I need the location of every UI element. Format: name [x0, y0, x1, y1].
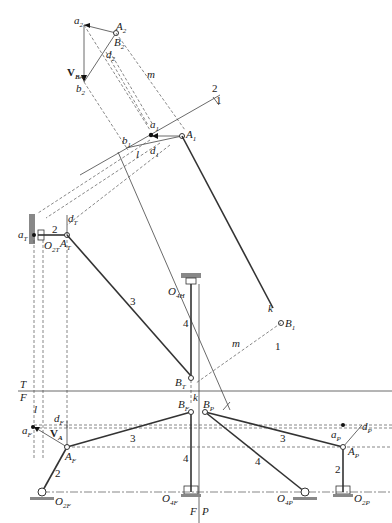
projector-lines-view1 [38, 140, 281, 383]
O4H-ground [181, 273, 201, 278]
svg-text:BF: BF [178, 398, 190, 413]
svg-text:O4P: O4P [277, 492, 293, 507]
svg-text:l: l [34, 403, 37, 415]
svg-text:3: 3 [280, 432, 286, 444]
front-view [30, 410, 392, 501]
svg-text:BT: BT [175, 376, 187, 391]
svg-text:O2P: O2P [354, 492, 370, 507]
svg-text:4: 4 [183, 317, 189, 329]
BP-joint [203, 410, 208, 415]
BT-joint [189, 376, 194, 381]
svg-text:B2: B2 [114, 36, 125, 51]
svg-text:VA: VA [50, 427, 63, 442]
svg-text:2: 2 [52, 223, 58, 235]
svg-text:A1: A1 [185, 128, 196, 143]
svg-text:l: l [136, 148, 139, 160]
aF-point [31, 425, 35, 429]
svg-text:k: k [268, 302, 274, 314]
svg-text:F: F [189, 505, 197, 517]
svg-text:aT: aT [18, 228, 29, 243]
svg-text:a2: a2 [74, 14, 84, 29]
AF-joint [65, 445, 70, 450]
svg-text:1: 1 [216, 94, 222, 106]
svg-text:B1: B1 [285, 317, 295, 332]
svg-text:2: 2 [55, 467, 61, 479]
svg-text:aF: aF [22, 424, 33, 439]
svg-text:4: 4 [255, 455, 261, 467]
svg-text:1: 1 [275, 340, 281, 352]
svg-text:b2: b2 [76, 82, 86, 97]
svg-text:O2F: O2F [55, 495, 71, 510]
O4F-ground [181, 494, 201, 497]
O2P-ground [333, 494, 353, 497]
svg-text:VBA: VBA [67, 66, 85, 81]
fold-line-1-T [118, 152, 230, 410]
svg-text:3: 3 [130, 432, 136, 444]
svg-text:d1: d1 [150, 144, 159, 159]
aT-point [32, 233, 36, 237]
svg-text:2: 2 [335, 463, 341, 475]
svg-text:P: P [201, 505, 209, 517]
svg-text:m: m [147, 68, 155, 80]
aP-point [341, 423, 345, 427]
velocity-polygon [81, 23, 119, 82]
link3-front [67, 412, 191, 447]
svg-text:dT: dT [68, 212, 79, 227]
profile-view [203, 410, 363, 501]
mechanism-diagram: a2 A2 B2 d2 VBA b2 m a1 A1 b1 d1 l 2 1 a… [0, 0, 392, 523]
AP-joint [341, 445, 346, 450]
auxiliary-view-1 [80, 95, 284, 410]
O2F-pivot [38, 488, 46, 496]
svg-text:m: m [232, 337, 240, 349]
svg-text:AF: AF [64, 450, 77, 465]
O2F-ground [30, 497, 54, 500]
svg-text:F: F [19, 391, 27, 403]
BF-joint [189, 410, 194, 415]
svg-text:2: 2 [212, 82, 218, 94]
a1-point [149, 133, 153, 137]
svg-text:k: k [193, 391, 199, 403]
svg-text:d2: d2 [106, 48, 116, 63]
svg-text:dP: dP [362, 420, 373, 435]
svg-text:3: 3 [130, 295, 136, 307]
projector-lines-view2 [84, 25, 185, 150]
svg-text:a1: a1 [150, 118, 159, 133]
svg-text:O2T: O2T [44, 239, 60, 254]
link3-top [67, 235, 191, 376]
svg-text:T: T [20, 378, 27, 390]
svg-text:4: 4 [183, 452, 189, 464]
svg-text:O4F: O4F [162, 492, 178, 507]
svg-text:b1: b1 [122, 134, 131, 149]
O4P-pivot [301, 488, 309, 496]
O4P-ground [293, 497, 317, 500]
svg-text:aP: aP [331, 428, 342, 443]
